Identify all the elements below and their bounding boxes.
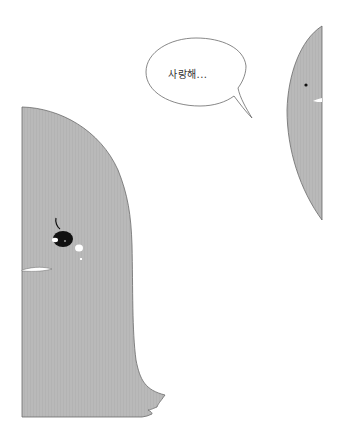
partial-gray-creature-right bbox=[287, 26, 322, 220]
eye-icon bbox=[304, 83, 307, 86]
speech-bubble-text: 사랑해... bbox=[168, 66, 208, 81]
large-gray-creature bbox=[22, 107, 165, 417]
